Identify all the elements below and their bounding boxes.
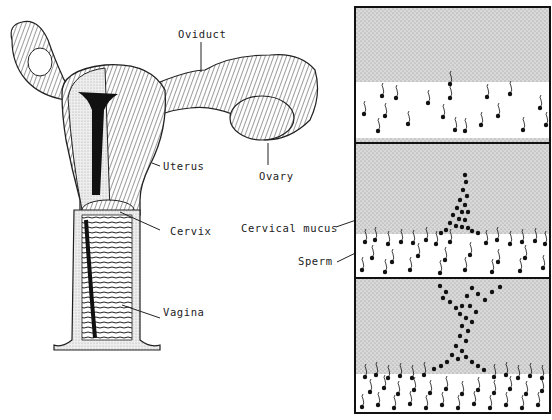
anatomy-illustration	[0, 0, 552, 420]
label-oviduct: Oviduct	[178, 28, 226, 40]
label-vagina: Vagina	[163, 306, 205, 318]
label-cervical-mucus: Cervical mucus	[241, 222, 338, 234]
label-ovary: Ovary	[259, 170, 294, 182]
label-uterus: Uterus	[163, 160, 205, 172]
label-cervix: Cervix	[170, 225, 212, 237]
label-sperm: Sperm	[298, 255, 333, 267]
reproductive-tract-drawing	[11, 21, 317, 350]
sperm-penetration-panels	[355, 7, 550, 413]
